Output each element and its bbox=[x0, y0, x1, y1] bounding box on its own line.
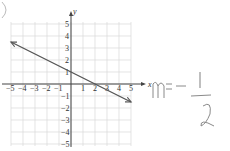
x-tick-label: 5 bbox=[129, 84, 133, 93]
axes: xy bbox=[2, 7, 152, 147]
handwritten-slope-annotation bbox=[2, 2, 214, 126]
y-tick-label: −2 bbox=[61, 104, 70, 113]
y-tick-label: −1 bbox=[61, 92, 70, 101]
x-tick-label: −3 bbox=[30, 84, 39, 93]
fraction-bar bbox=[191, 95, 211, 96]
y-tick-label: −4 bbox=[61, 128, 70, 137]
corner-pencil-arc bbox=[2, 2, 6, 18]
coordinate-plane: xy −5−4−3−2−11234554321−1−2−3−4−5 bbox=[0, 0, 230, 151]
y-tick-label: 3 bbox=[65, 44, 69, 53]
y-tick-label: −5 bbox=[61, 140, 70, 149]
y-tick-label: 2 bbox=[65, 56, 69, 65]
x-tick-label: 3 bbox=[105, 84, 109, 93]
x-tick-label: −4 bbox=[18, 84, 27, 93]
x-tick-label: 1 bbox=[81, 84, 85, 93]
x-tick-label: 4 bbox=[117, 84, 121, 93]
handwritten-m bbox=[153, 82, 164, 98]
x-axis-label: x bbox=[147, 80, 152, 89]
handwritten-denominator-2 bbox=[201, 104, 214, 126]
y-axis-label: y bbox=[72, 7, 77, 16]
y-tick-label: −3 bbox=[61, 116, 70, 125]
handwritten-equals bbox=[166, 84, 172, 89]
x-tick-label: −5 bbox=[6, 84, 15, 93]
x-axis-arrow-icon bbox=[141, 82, 146, 86]
y-tick-label: 5 bbox=[65, 20, 69, 29]
x-tick-label: −2 bbox=[42, 84, 51, 93]
y-tick-label: 4 bbox=[65, 32, 69, 41]
